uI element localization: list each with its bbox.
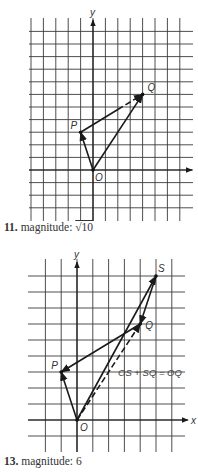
point-s: [154, 274, 158, 278]
caption-13: 13. magnitude: 6: [4, 455, 82, 467]
point-o: [75, 418, 79, 422]
caption-text: magnitude:: [21, 455, 73, 467]
point-label-o: O: [80, 422, 88, 433]
point-q: [138, 322, 142, 326]
point-p: [59, 370, 63, 374]
caption-number: 13.: [4, 455, 18, 467]
points: OPQS: [51, 263, 165, 433]
grid: [28, 259, 185, 452]
vector-op: [61, 372, 77, 420]
vector-os: [77, 276, 156, 420]
vector-diagram-13: yx OPQS OS + SQ = OQ: [0, 0, 198, 475]
y-axis-label: y: [73, 249, 80, 260]
point-label-s: S: [158, 263, 165, 274]
point-label-p: P: [51, 360, 58, 371]
vector-qp: [61, 324, 140, 372]
point-label-q: Q: [145, 320, 153, 331]
x-axis-label: x: [190, 415, 197, 426]
caption-value: 6: [76, 455, 82, 467]
vector-equation: OS + SQ = OQ: [118, 367, 182, 378]
